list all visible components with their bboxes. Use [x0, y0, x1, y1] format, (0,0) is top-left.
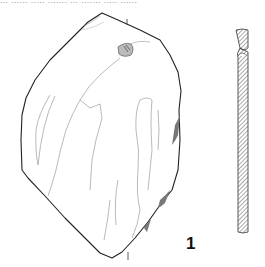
artifact-cross-section — [236, 29, 248, 233]
artifact-figure — [0, 0, 265, 267]
scar-detail — [118, 41, 150, 56]
surface-detail-lines — [36, 58, 159, 240]
figure-number-label: 1 — [186, 234, 195, 254]
artifact-face-view — [21, 13, 181, 260]
